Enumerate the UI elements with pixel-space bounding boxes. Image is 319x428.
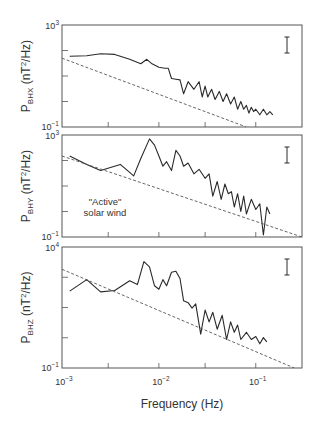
x-axis-label: Frequency (Hz) bbox=[141, 397, 224, 411]
panel-3: 10410−110−310−210−1PBHZ (nT2/Hz) bbox=[19, 241, 302, 387]
y-tick-label-bottom: 10−1 bbox=[42, 361, 60, 373]
plot-frame bbox=[62, 247, 302, 368]
x-tick-label: 10−3 bbox=[55, 375, 73, 387]
panels: 10310−1PBHX (nT2/Hz)10310−1PBHY (nT2/Hz)… bbox=[19, 19, 302, 387]
y-tick-label-top: 103 bbox=[45, 129, 59, 141]
error-bar-icon bbox=[285, 37, 290, 53]
annotation-text: solar wind bbox=[84, 207, 127, 218]
spectrum-line bbox=[70, 262, 267, 344]
error-bar-icon bbox=[285, 259, 290, 275]
y-axis-label: PBHX (nT2/Hz) bbox=[19, 40, 35, 112]
panel-2: 10310−1PBHY (nT2/Hz)"Active"solar wind bbox=[19, 129, 302, 242]
y-tick-label-top: 103 bbox=[45, 19, 59, 31]
y-tick-label-top: 104 bbox=[45, 241, 59, 253]
plot-frame bbox=[62, 135, 302, 237]
plot-frame bbox=[62, 25, 302, 127]
chart-canvas: 10310−1PBHX (nT2/Hz)10310−1PBHY (nT2/Hz)… bbox=[0, 0, 319, 428]
panel-1: 10310−1PBHX (nT2/Hz) bbox=[19, 19, 302, 132]
annotation-text: "Active" bbox=[89, 196, 122, 207]
spectrum-line bbox=[70, 54, 273, 115]
reference-dashed-line bbox=[62, 269, 294, 368]
x-tick-label: 10−2 bbox=[152, 375, 170, 387]
spectrum-line bbox=[70, 139, 270, 235]
y-axis-label: PBHZ (nT2/Hz) bbox=[19, 272, 35, 344]
x-tick-label: 10−1 bbox=[249, 375, 267, 387]
error-bar-icon bbox=[285, 147, 290, 163]
power-spectra-figure: 10310−1PBHX (nT2/Hz)10310−1PBHY (nT2/Hz)… bbox=[0, 0, 319, 428]
y-axis-label: PBHY (nT2/Hz) bbox=[19, 150, 35, 222]
